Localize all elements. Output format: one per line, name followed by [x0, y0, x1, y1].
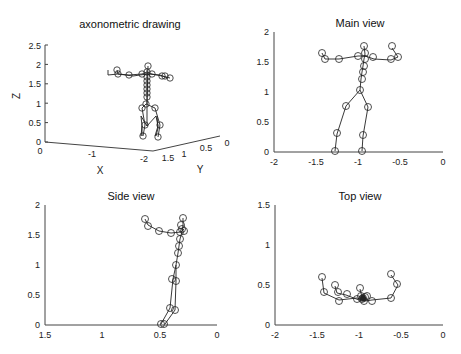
- svg-text:1.5: 1.5: [28, 79, 41, 89]
- svg-text:0: 0: [37, 146, 42, 156]
- axonometric-panel: axonometric drawing 0 0.5 1 1.5 2 2.5 Z …: [11, 18, 230, 176]
- svg-text:2: 2: [35, 200, 40, 210]
- svg-text:-0.5: -0.5: [392, 157, 408, 167]
- svg-text:1.5: 1.5: [27, 230, 40, 240]
- panel-title: Top view: [339, 190, 382, 202]
- svg-text:0: 0: [224, 138, 229, 148]
- svg-text:1.5: 1.5: [257, 200, 270, 210]
- svg-text:1.5: 1.5: [256, 57, 269, 67]
- figure: axonometric drawing 0 0.5 1 1.5 2 2.5 Z …: [0, 0, 461, 354]
- svg-text:0.5: 0.5: [256, 117, 269, 127]
- svg-text:0.5: 0.5: [200, 143, 213, 153]
- svg-text:1: 1: [35, 260, 40, 270]
- x-axis-label: X: [97, 165, 104, 176]
- svg-text:-2: -2: [140, 154, 148, 164]
- center-cluster: [360, 295, 366, 301]
- skeleton-3d: [108, 70, 168, 136]
- svg-text:1: 1: [265, 240, 270, 250]
- svg-text:-2: -2: [271, 330, 279, 340]
- x-axis: [45, 142, 153, 151]
- svg-text:1.5: 1.5: [39, 330, 52, 340]
- y-axis-label: Y: [197, 164, 204, 175]
- top-view-panel: Top view 0 0.5 1 1.5 -2 -1.5 -1 -0.5 0: [257, 190, 445, 340]
- panel-title: Side view: [107, 190, 154, 202]
- x-ticks: -2 -1.5 -1 -0.5 0: [270, 157, 446, 167]
- x-ticks: 0 -1 -2: [37, 146, 148, 164]
- svg-text:2.5: 2.5: [28, 41, 41, 51]
- main-view-panel: Main view 0 0.5 1 1.5 2 -2 -1.5 -1 -0.5 …: [256, 17, 445, 167]
- y-ticks: 0 0.5 1 1.5 2: [27, 200, 40, 330]
- svg-text:2: 2: [264, 27, 269, 37]
- svg-text:0: 0: [440, 157, 445, 167]
- x-ticks: 1.5 1 0.5 0: [39, 330, 220, 340]
- svg-text:-1: -1: [354, 157, 362, 167]
- svg-text:0: 0: [265, 320, 270, 330]
- svg-text:2: 2: [36, 60, 41, 70]
- y-ticks: 0 0.5 1 1.5: [257, 200, 270, 330]
- svg-text:0.5: 0.5: [154, 330, 167, 340]
- panel-title: Main view: [336, 17, 385, 29]
- svg-text:1: 1: [181, 149, 186, 159]
- svg-text:-1: -1: [355, 330, 363, 340]
- svg-text:1: 1: [99, 330, 104, 340]
- panel-title: axonometric drawing: [79, 18, 181, 30]
- joints-top: [319, 271, 401, 305]
- svg-text:0: 0: [35, 320, 40, 330]
- svg-text:0: 0: [264, 147, 269, 157]
- y-ticks: 0 0.5 1 1.5 2: [256, 27, 269, 157]
- svg-text:1: 1: [36, 99, 41, 109]
- svg-text:1: 1: [264, 87, 269, 97]
- svg-text:0: 0: [214, 330, 219, 340]
- svg-text:0.5: 0.5: [257, 280, 270, 290]
- svg-text:-1: -1: [88, 149, 96, 159]
- svg-text:1.5: 1.5: [162, 153, 175, 163]
- x-ticks: -2 -1.5 -1 -0.5 0: [271, 330, 446, 340]
- svg-text:-1.5: -1.5: [308, 157, 324, 167]
- svg-text:0: 0: [440, 330, 445, 340]
- skeleton-main: [322, 46, 398, 151]
- svg-text:-1.5: -1.5: [309, 330, 325, 340]
- joints-side: [142, 215, 188, 328]
- svg-text:0.5: 0.5: [28, 118, 41, 128]
- svg-text:-0.5: -0.5: [393, 330, 409, 340]
- svg-text:0.5: 0.5: [27, 290, 40, 300]
- side-view-panel: Side view 0 0.5 1 1.5 2 1.5 1 0.5 0: [27, 190, 219, 340]
- svg-text:-2: -2: [270, 157, 278, 167]
- z-axis-label: Z: [11, 93, 22, 99]
